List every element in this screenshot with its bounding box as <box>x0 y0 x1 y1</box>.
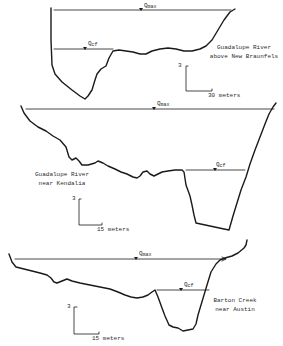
scale-vertical-label-2: 3 <box>72 195 76 202</box>
scale-bar-2 <box>79 199 102 225</box>
location-label-2: Guadalupe River near Kendalia <box>22 170 102 188</box>
scale-vertical-label-3: 3 <box>67 303 71 310</box>
location-desc-2: near Kendalia <box>22 179 102 188</box>
scale-horizontal-label-2: 15 meters <box>97 226 129 233</box>
panel-2-cross-section <box>21 103 276 230</box>
scale-bar-3 <box>74 307 99 334</box>
scale-horizontal-label-1: 30 meters <box>208 92 240 99</box>
q-max-label-1: Qmax <box>144 2 157 10</box>
channel-profile-3 <box>9 240 247 331</box>
q-max-label-3: Qmax <box>139 250 152 258</box>
location-name-3: Barton Creek <box>205 296 265 305</box>
q-cf-label-1: Qcf <box>88 40 98 48</box>
location-label-1: Guadalupe River above New Braunfels <box>204 43 283 61</box>
q-cf-label-2: Qcf <box>216 161 226 169</box>
scale-bar-1 <box>186 66 212 91</box>
q-max-marker-3 <box>134 257 138 260</box>
scale-horizontal-label-3: 15 meters <box>92 335 124 342</box>
q-max-marker-2 <box>152 107 156 110</box>
location-label-3: Barton Creek near Austin <box>205 296 265 314</box>
channel-profile-2 <box>21 103 276 230</box>
location-name-1: Guadalupe River <box>204 43 283 52</box>
q-cf-marker-3 <box>179 288 183 291</box>
q-cf-marker-1 <box>83 47 87 50</box>
scale-vertical-label-1: 3 <box>178 62 182 69</box>
location-desc-1: above New Braunfels <box>204 52 283 61</box>
q-cf-label-3: Qcf <box>184 281 194 289</box>
q-max-marker-1 <box>139 8 143 11</box>
location-desc-3: near Austin <box>205 305 265 314</box>
location-name-2: Guadalupe River <box>22 170 102 179</box>
q-max-label-2: Qmax <box>157 100 170 108</box>
panel-3-cross-section <box>9 240 247 334</box>
